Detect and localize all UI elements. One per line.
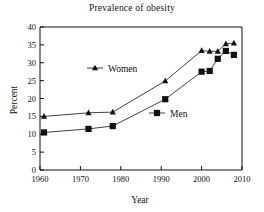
y-axis-ticks: 0510152025303540 bbox=[28, 22, 45, 175]
data-point-marker bbox=[223, 48, 229, 54]
legend-item-women: Women bbox=[87, 64, 138, 74]
data-point-marker bbox=[162, 96, 168, 102]
y-tick-label: 30 bbox=[28, 58, 37, 68]
y-tick-label: 25 bbox=[28, 76, 37, 86]
data-point-marker bbox=[41, 129, 47, 135]
y-tick-label: 10 bbox=[28, 129, 37, 139]
data-point-marker bbox=[215, 56, 221, 62]
y-tick-label: 40 bbox=[28, 22, 37, 32]
data-point-marker bbox=[85, 126, 91, 132]
legend-item-men: Men bbox=[149, 109, 188, 119]
data-point-marker bbox=[110, 109, 116, 115]
data-point-marker bbox=[231, 40, 237, 46]
x-axis-label: Year bbox=[131, 195, 149, 205]
y-tick-label: 5 bbox=[32, 147, 36, 157]
series-women bbox=[41, 40, 237, 119]
x-tick-label: 1960 bbox=[32, 174, 49, 184]
y-tick-label: 35 bbox=[28, 40, 37, 50]
legend-item-men-label: Men bbox=[170, 109, 188, 119]
x-tick-label: 2000 bbox=[193, 174, 210, 184]
data-series-layer bbox=[41, 40, 237, 136]
legend-item-women-label: Women bbox=[108, 64, 138, 74]
data-point-marker bbox=[110, 123, 116, 129]
data-point-marker bbox=[199, 47, 205, 53]
data-point-marker bbox=[92, 65, 98, 71]
y-tick-label: 15 bbox=[28, 111, 37, 121]
axis-frame bbox=[40, 27, 242, 170]
data-point-marker bbox=[207, 68, 213, 74]
data-point-marker bbox=[231, 52, 237, 58]
y-tick-label: 20 bbox=[28, 94, 37, 104]
x-tick-label: 1970 bbox=[72, 174, 89, 184]
x-tick-label: 1980 bbox=[112, 174, 129, 184]
chart-legend: WomenMen bbox=[87, 64, 188, 119]
chart-figure: Prevalence of obesity 0510152025303540 1… bbox=[0, 0, 264, 212]
x-axis-ticks: 196019701980199020002010 bbox=[32, 166, 251, 184]
chart-plot-area: 0510152025303540 19601970198019902000201… bbox=[0, 0, 264, 212]
data-point-marker bbox=[162, 78, 168, 84]
x-tick-label: 1990 bbox=[153, 174, 170, 184]
data-point-marker bbox=[199, 69, 205, 75]
series-men bbox=[41, 48, 237, 136]
data-point-marker bbox=[154, 110, 160, 116]
x-tick-label: 2010 bbox=[234, 174, 251, 184]
y-axis-label: Percent bbox=[9, 85, 19, 114]
